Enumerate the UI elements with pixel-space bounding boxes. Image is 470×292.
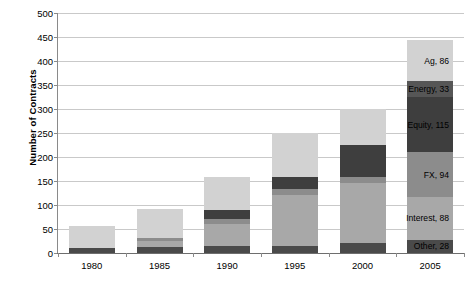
data-label-ag: Ag, 86 — [58, 56, 449, 66]
y-tick-label-0: 0 — [48, 248, 53, 259]
y-tick-label-300: 300 — [37, 104, 53, 115]
x-tick-label-1995: 1995 — [284, 260, 305, 271]
x-tick-mark-1980 — [58, 253, 59, 257]
y-tick-label-450: 450 — [37, 32, 53, 43]
data-label-interest: Interest, 88 — [58, 213, 449, 223]
y-tick-label-400: 400 — [37, 56, 53, 67]
x-tick-mark-1985 — [126, 253, 127, 257]
plot-area: 050100150200250300350400450500 198019851… — [57, 13, 464, 253]
x-tick-label-2000: 2000 — [352, 260, 373, 271]
y-tick-label-50: 50 — [42, 224, 53, 235]
x-tick-mark-1990 — [193, 253, 194, 257]
x-tick-label-1990: 1990 — [217, 260, 238, 271]
y-tick-label-200: 200 — [37, 152, 53, 163]
x-tick-mark-2005 — [396, 253, 397, 257]
bar-segment-1990-ag[interactable] — [204, 177, 250, 210]
data-label-energy: Energy, 33 — [58, 84, 449, 94]
data-label-fx: FX, 94 — [58, 170, 449, 180]
x-tick-mark-end — [464, 253, 465, 257]
x-tick-label-1985: 1985 — [149, 260, 170, 271]
data-label-other: Other, 28 — [58, 241, 449, 251]
y-tick-label-100: 100 — [37, 200, 53, 211]
y-tick-label-500: 500 — [37, 8, 53, 19]
stacked-bar-chart: Number of Contracts 05010015020025030035… — [0, 0, 470, 292]
data-label-equity: Equity, 115 — [58, 120, 449, 130]
x-tick-label-2005: 2005 — [420, 260, 441, 271]
y-axis-title: Number of Contracts — [27, 38, 38, 198]
x-tick-label-1980: 1980 — [81, 260, 102, 271]
y-tick-label-250: 250 — [37, 128, 53, 139]
bar-2000[interactable] — [340, 109, 386, 253]
y-tick-label-350: 350 — [37, 80, 53, 91]
bar-1995[interactable] — [272, 133, 318, 253]
x-tick-mark-1995 — [261, 253, 262, 257]
bar-segment-1995-fx[interactable] — [272, 189, 318, 196]
x-tick-mark-2000 — [329, 253, 330, 257]
y-tick-label-150: 150 — [37, 176, 53, 187]
